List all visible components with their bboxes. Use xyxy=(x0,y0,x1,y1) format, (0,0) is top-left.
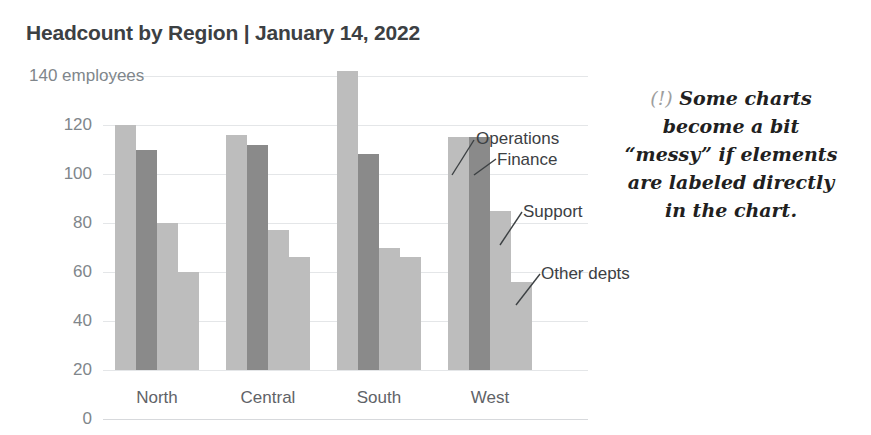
series-label-finance: Finance xyxy=(497,150,557,170)
side-note: (!) Some charts become a bit “messy” if … xyxy=(600,84,862,224)
series-label-operations: Operations xyxy=(476,129,559,149)
leader-line-support xyxy=(500,212,522,245)
side-note-text-1: Some charts xyxy=(679,87,811,109)
side-note-line-5: in the chart. xyxy=(600,196,862,224)
series-label-other-depts: Other depts xyxy=(541,264,630,284)
side-note-line-3: “messy” if elements xyxy=(600,140,862,168)
leader-line-operations xyxy=(452,140,474,175)
side-note-line-4: are labeled directly xyxy=(600,168,862,196)
leader-line-other-depts xyxy=(516,274,540,305)
series-label-support: Support xyxy=(523,202,583,222)
side-note-line-2: become a bit xyxy=(600,112,862,140)
warning-icon: (!) xyxy=(650,87,672,109)
side-note-line-1: (!) Some charts xyxy=(600,84,862,112)
leader-line-finance xyxy=(474,159,496,175)
chart-root: Headcount by Region | January 14, 2022 1… xyxy=(0,0,871,435)
